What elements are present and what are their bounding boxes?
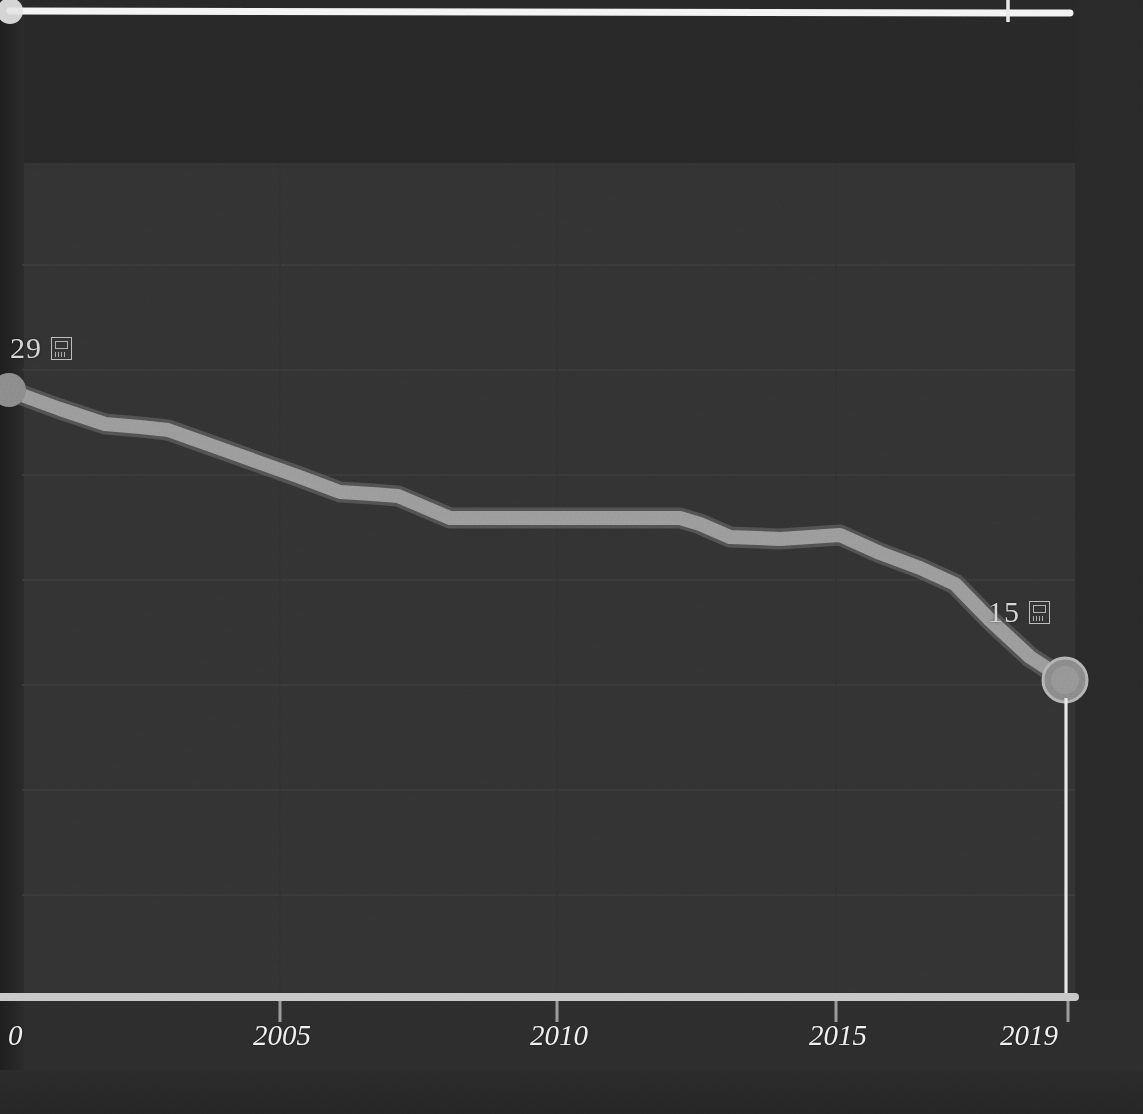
- missing-glyph-icon: [51, 337, 72, 360]
- start-value-text: 29: [10, 331, 42, 364]
- upper-series-start-marker: [0, 0, 23, 24]
- chart-plot-area: [0, 0, 1143, 1114]
- x-tick-label-2015: 2015: [809, 1019, 867, 1052]
- upper-series-line: [0, 0, 1070, 24]
- main-series-line: [8, 390, 1065, 680]
- x-tick-label-0: 0: [8, 1019, 23, 1052]
- main-series-path: [8, 390, 1065, 680]
- end-value-text: 15: [988, 595, 1020, 628]
- x-tick-label-2005: 2005: [253, 1019, 311, 1052]
- series-end-marker: [1043, 658, 1087, 702]
- chart-canvas: 29 15 0 2005 2010 2015 2019: [0, 0, 1143, 1114]
- x-axis-ticks: [280, 1001, 1068, 1022]
- start-value-label: 29: [10, 331, 72, 365]
- missing-glyph-icon: [1029, 601, 1050, 624]
- x-tick-label-2019: 2019: [1000, 1019, 1058, 1052]
- x-tick-label-2010: 2010: [530, 1019, 588, 1052]
- gridlines: [22, 265, 1075, 895]
- end-value-label: 15: [988, 595, 1050, 629]
- upper-series-path: [10, 11, 1070, 13]
